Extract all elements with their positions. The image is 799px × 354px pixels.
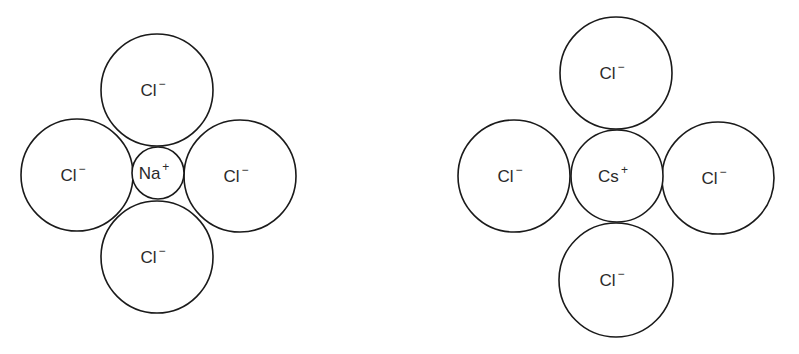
- cs-cation: Cs+: [571, 130, 663, 222]
- chloride-ion-top: Cl−: [560, 17, 672, 129]
- chloride-ion-top-charge: −: [618, 60, 625, 74]
- chloride-ion-top: Cl−: [101, 34, 213, 146]
- chloride-ion-right-charge: −: [720, 165, 727, 179]
- chloride-ion-bottom-symbol: Cl: [140, 248, 156, 267]
- chloride-ion-top-circle: [101, 34, 213, 146]
- na-cation-symbol: Na: [139, 164, 161, 183]
- cs-cation-charge: +: [621, 163, 628, 177]
- chloride-ion-right-circle: [184, 120, 296, 232]
- chloride-ion-right-circle: [662, 122, 774, 234]
- chloride-ion-right-symbol: Cl: [223, 167, 239, 186]
- cscl-structure: Cl−Cl−Cl−Cl−Cs+: [458, 17, 774, 337]
- chloride-ion-bottom-circle: [559, 223, 673, 337]
- chloride-ion-bottom-charge: −: [159, 244, 166, 258]
- na-cation-charge: +: [162, 160, 169, 174]
- chloride-ion-left-charge: −: [79, 162, 86, 176]
- chloride-ion-left-charge: −: [516, 163, 523, 177]
- chloride-ion-left: Cl−: [21, 119, 133, 231]
- nacl-structure: Cl−Cl−Cl−Cl−Na+: [21, 34, 296, 313]
- chloride-ion-top-symbol: Cl: [140, 81, 156, 100]
- chloride-ion-top-circle: [560, 17, 672, 129]
- cs-cation-symbol: Cs: [598, 167, 619, 186]
- chloride-ion-bottom: Cl−: [559, 223, 673, 337]
- ionic-packing-diagram: Cl−Cl−Cl−Cl−Na+Cl−Cl−Cl−Cl−Cs+: [0, 0, 799, 354]
- chloride-ion-right: Cl−: [662, 122, 774, 234]
- chloride-ion-bottom-charge: −: [618, 267, 625, 281]
- chloride-ion-bottom: Cl−: [101, 201, 213, 313]
- na-cation: Na+: [132, 147, 184, 199]
- chloride-ion-left-circle: [458, 120, 570, 232]
- chloride-ion-right-charge: −: [242, 163, 249, 177]
- chloride-ion-top-charge: −: [159, 77, 166, 91]
- chloride-ion-left: Cl−: [458, 120, 570, 232]
- chloride-ion-top-symbol: Cl: [599, 64, 615, 83]
- chloride-ion-bottom-circle: [101, 201, 213, 313]
- chloride-ion-left-circle: [21, 119, 133, 231]
- chloride-ion-left-symbol: Cl: [497, 167, 513, 186]
- chloride-ion-bottom-symbol: Cl: [599, 271, 615, 290]
- chloride-ion-right: Cl−: [184, 120, 296, 232]
- chloride-ion-left-symbol: Cl: [60, 166, 76, 185]
- chloride-ion-right-symbol: Cl: [701, 169, 717, 188]
